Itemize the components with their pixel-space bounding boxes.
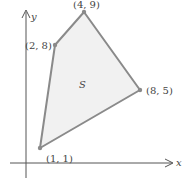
region-label: S — [79, 79, 86, 90]
vertex-label: (2, 8) — [25, 40, 52, 51]
y-axis-label: y — [30, 11, 37, 22]
vertex-point — [38, 146, 42, 150]
vertex-label: (1, 1) — [46, 153, 73, 164]
vertex-label: (4, 9) — [73, 0, 100, 10]
vertex-point — [138, 88, 142, 92]
vertex-label: (8, 5) — [146, 85, 173, 96]
region-s — [40, 12, 140, 148]
vertex-point — [82, 10, 86, 14]
vertex-point — [53, 43, 57, 47]
x-axis-label: x — [176, 157, 182, 168]
coordinate-diagram: y x S (1, 1) (2, 8) (4, 9) (8, 5) — [0, 0, 187, 187]
